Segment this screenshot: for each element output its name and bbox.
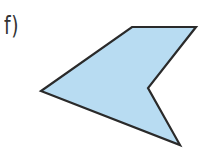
shape-canvas — [0, 0, 202, 151]
concave-polygon-shape — [41, 27, 196, 145]
